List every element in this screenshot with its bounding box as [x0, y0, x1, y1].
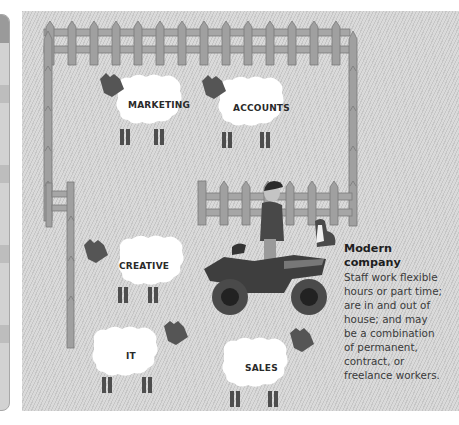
caption-body-line: freelance workers. — [344, 368, 458, 382]
sheep-it — [92, 321, 188, 393]
caption-title-line2: company — [344, 256, 458, 270]
sheep-label-creative: CREATIVE — [119, 261, 169, 271]
top-fence — [44, 21, 350, 65]
caption-title-line1: Modern — [344, 242, 458, 256]
caption-body-line: house; and may — [344, 312, 458, 326]
caption-body-line: Staff work flexible — [344, 270, 458, 284]
sheep-label-it: IT — [126, 351, 136, 361]
sheep-label-sales: SALES — [245, 363, 278, 373]
caption-block: Modern company Staff work flexible hours… — [344, 242, 458, 382]
caption-body-line: are in and out of — [344, 298, 458, 312]
caption-body-line: be a combination — [344, 326, 458, 340]
sheep-label-accounts: ACCOUNTS — [233, 103, 290, 113]
left-gate-fence — [46, 182, 74, 348]
caption-body-line: hours or part time; — [344, 284, 458, 298]
left-panel-edge — [0, 14, 10, 411]
caption-body-line: contract, or — [344, 354, 458, 368]
sheep-label-marketing: MARKETING — [128, 100, 190, 110]
caption-body-line: of permanent, — [344, 340, 458, 354]
